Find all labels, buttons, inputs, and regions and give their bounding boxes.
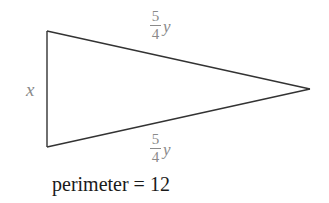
- side-bottom-label: 5 4 y: [150, 132, 171, 165]
- fraction: 5 4: [150, 132, 161, 165]
- side-top-label: 5 4 y: [150, 9, 171, 42]
- triangle-diagram: x 5 4 y 5 4 y perimeter = 12: [0, 0, 329, 203]
- fraction-denominator: 4: [151, 26, 161, 42]
- side-bottom: [47, 89, 310, 147]
- fraction-variable: y: [163, 17, 171, 37]
- fraction-numerator: 5: [151, 132, 161, 148]
- fraction: 5 4: [150, 9, 161, 42]
- side-top: [47, 31, 310, 89]
- fraction-variable: y: [163, 140, 171, 160]
- perimeter-caption: perimeter = 12: [52, 174, 170, 194]
- fraction-denominator: 4: [151, 149, 161, 165]
- fraction-numerator: 5: [151, 9, 161, 25]
- side-left-label: x: [26, 80, 34, 99]
